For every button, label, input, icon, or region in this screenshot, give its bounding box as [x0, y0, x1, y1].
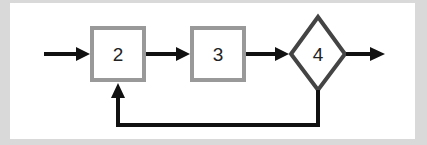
node-2-label: 2	[113, 44, 124, 65]
arrow-3-to-4	[246, 47, 289, 61]
node-2: 2	[92, 28, 144, 80]
node-3-label: 3	[213, 44, 224, 65]
output-arrow	[346, 47, 385, 61]
input-arrow	[44, 47, 90, 61]
feedback-arrow	[111, 83, 318, 125]
arrow-2-to-3	[146, 47, 190, 61]
node-4-label: 4	[313, 44, 324, 65]
node-4: 4	[291, 17, 345, 90]
flow-diagram: 2 3 4	[0, 0, 427, 145]
node-3: 3	[192, 28, 244, 80]
